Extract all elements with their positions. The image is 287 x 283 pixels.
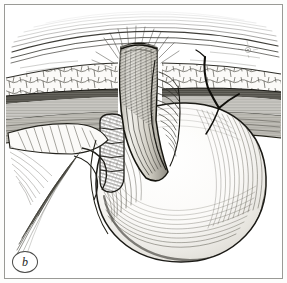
panel-label-text: b bbox=[22, 256, 28, 268]
surgical-illustration bbox=[0, 0, 287, 283]
afferent-bowel-limb bbox=[100, 114, 124, 192]
figure-root: b bbox=[0, 0, 287, 283]
panel-label-b: b bbox=[12, 251, 38, 273]
